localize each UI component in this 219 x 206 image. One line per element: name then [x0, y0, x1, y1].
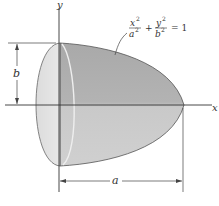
y-axis-label: y [56, 0, 63, 10]
svg-text:2: 2 [136, 15, 140, 22]
x-axis-label: x [212, 102, 218, 113]
dimension-b-label: b [13, 67, 20, 80]
svg-text:2: 2 [162, 15, 166, 22]
svg-text:2: 2 [135, 26, 139, 33]
equation-leader [115, 33, 127, 55]
svg-text:+: + [145, 23, 153, 33]
svg-text:a: a [129, 29, 134, 39]
solid-of-revolution-diagram: x y b a x 2 a 2 + y 2 b 2 = 1 [0, 0, 219, 206]
svg-text:= 1: = 1 [171, 23, 187, 33]
svg-text:2: 2 [161, 26, 165, 33]
solid-body [60, 43, 184, 166]
base-face [36, 43, 60, 166]
ellipse-equation: x 2 a 2 + y 2 b 2 = 1 [129, 15, 187, 39]
dimension-a-label: a [112, 174, 119, 187]
